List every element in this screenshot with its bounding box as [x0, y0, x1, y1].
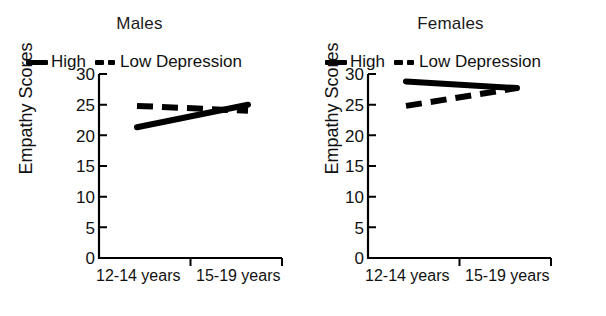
x-tick-label-15-19-years: 15-19 years — [465, 268, 550, 284]
y-axis-ticks-males — [99, 74, 107, 227]
axis-lines-males — [99, 74, 282, 258]
series-line-low-depression-females — [406, 88, 517, 106]
x-tick-label-12-14-years: 12-14 years — [96, 268, 181, 284]
axis-lines-females — [368, 74, 551, 258]
x-tick-label-15-19-years: 15-19 years — [196, 268, 281, 284]
plot-area-females — [303, 0, 606, 316]
x-tick-label-12-14-years: 12-14 years — [365, 268, 450, 284]
chart-panel-males: Males High Low Depression Empathy Scores… — [0, 0, 303, 316]
x-axis-ticks-females — [460, 258, 552, 266]
chart-panel-females: Females High Low Depression Empathy Scor… — [303, 0, 606, 316]
y-axis-ticks-females — [368, 74, 376, 227]
figure-two-panel-line-chart: Males High Low Depression Empathy Scores… — [0, 0, 606, 316]
x-axis-ticks-males — [191, 258, 283, 266]
series-line-high-females — [406, 81, 517, 88]
